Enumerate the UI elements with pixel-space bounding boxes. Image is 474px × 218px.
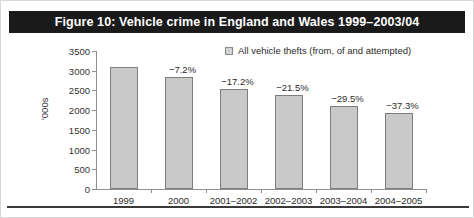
y-axis-tick-label: 0 bbox=[85, 184, 90, 195]
y-axis-tick-label: 1000 bbox=[69, 144, 90, 155]
bar bbox=[275, 95, 303, 189]
page-title: Figure 10: Vehicle crime in England and … bbox=[9, 15, 465, 29]
figure-title-bar: Figure 10: Vehicle crime in England and … bbox=[9, 11, 465, 33]
y-axis-tick-label: 500 bbox=[74, 164, 90, 175]
bar bbox=[330, 106, 358, 189]
y-axis-tick bbox=[92, 51, 96, 52]
x-axis-tick bbox=[316, 189, 317, 193]
y-axis-tick bbox=[92, 90, 96, 91]
bottom-divider bbox=[7, 206, 469, 208]
x-axis-tick bbox=[426, 189, 427, 193]
y-axis-tick bbox=[92, 110, 96, 111]
x-axis-category-label: 2002–2003 bbox=[265, 195, 313, 206]
y-axis-tick-label: 3500 bbox=[69, 46, 90, 57]
x-axis-tick bbox=[206, 189, 207, 193]
x-axis-category-label: 2001–2002 bbox=[210, 195, 258, 206]
bar bbox=[385, 113, 413, 189]
y-axis-tick bbox=[92, 130, 96, 131]
y-axis-tick-label: 2500 bbox=[69, 85, 90, 96]
y-axis-tick-label: 2000 bbox=[69, 105, 90, 116]
x-axis-tick bbox=[261, 189, 262, 193]
y-axis-title: '000s bbox=[39, 98, 50, 120]
y-axis-tick bbox=[92, 169, 96, 170]
bar bbox=[220, 89, 248, 189]
x-axis-category-label: 1999 bbox=[113, 195, 134, 206]
x-axis-category-label: 2003–2004 bbox=[320, 195, 368, 206]
plot-area: 0500100015002000250030003500 19992000200… bbox=[96, 51, 426, 189]
x-axis-tick bbox=[151, 189, 152, 193]
x-axis-category-label: 2000 bbox=[168, 195, 189, 206]
bar-value-label: −29.5% bbox=[331, 93, 364, 104]
bar-value-label: −21.5% bbox=[276, 82, 309, 93]
y-axis-line bbox=[96, 51, 97, 189]
y-axis-tick bbox=[92, 71, 96, 72]
y-axis-tick-label: 3000 bbox=[69, 65, 90, 76]
bar-value-label: −37.3% bbox=[386, 100, 419, 111]
y-axis-tick-label: 1500 bbox=[69, 124, 90, 135]
figure-container: Figure 10: Vehicle crime in England and … bbox=[0, 0, 474, 218]
x-axis-category-label: 2004–2005 bbox=[375, 195, 423, 206]
bar bbox=[165, 77, 193, 189]
y-axis-tick bbox=[92, 189, 96, 190]
bar-value-label: −7.2% bbox=[169, 64, 196, 75]
y-axis-tick bbox=[92, 150, 96, 151]
x-axis-tick bbox=[371, 189, 372, 193]
bar-value-label: −17.2% bbox=[221, 76, 254, 87]
bar bbox=[110, 67, 138, 189]
